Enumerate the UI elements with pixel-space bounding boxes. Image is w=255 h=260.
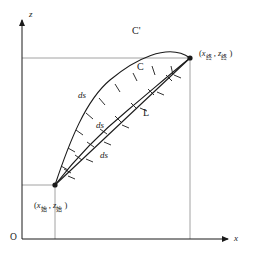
- ds-label-l: ds: [100, 151, 108, 160]
- origin-label: O: [10, 233, 17, 243]
- figure-canvas: [0, 0, 255, 260]
- ds-label-c: ds: [96, 121, 104, 130]
- start-point-label: (x始 , z始 ): [34, 201, 67, 210]
- start-point-dot: [52, 182, 57, 187]
- curve-label-c: C: [137, 62, 144, 72]
- ds-label-c-prime: ds: [78, 91, 86, 100]
- start-point-z-sub: 始: [56, 206, 62, 212]
- line-l: [55, 58, 190, 185]
- curve-label-c-prime: C': [132, 26, 140, 36]
- x-axis-label: x: [234, 234, 238, 243]
- end-point-label: (x终 , z终 ): [199, 49, 232, 58]
- curve-c-prime: [55, 52, 190, 185]
- brachistochrone-figure: z x O C' C L ds ds ds (x终 , z终 ) (x始 , z…: [0, 0, 255, 260]
- curve-label-l: L: [143, 108, 149, 118]
- end-point-dot: [187, 55, 192, 60]
- y-axis-label: z: [29, 10, 33, 19]
- start-point-x-sub: 始: [41, 206, 47, 212]
- end-point-x-sub: 终: [206, 54, 212, 60]
- end-point-z-sub: 终: [221, 54, 227, 60]
